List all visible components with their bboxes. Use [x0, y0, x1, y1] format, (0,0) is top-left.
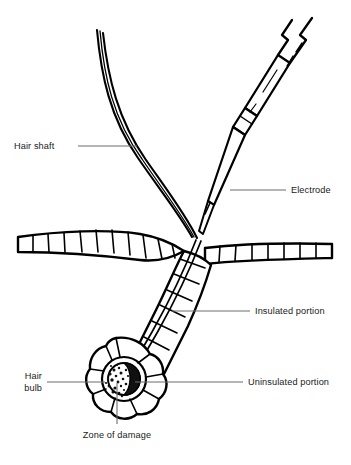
label-uninsulated-portion: Uninsulated portion [248, 377, 329, 387]
label-hair-bulb-line2: bulb [24, 383, 42, 393]
label-hair-bulb-line1: Hair [25, 371, 42, 381]
hair-shaft [97, 30, 197, 238]
electrode-needle [199, 18, 312, 234]
electrolysis-follicle-diagram: Hair shaft Electrode Insulated portion U… [0, 0, 351, 465]
diagram-figure: Hair shaft Electrode Insulated portion U… [0, 0, 351, 465]
label-insulated-portion: Insulated portion [255, 306, 325, 316]
label-electrode: Electrode [291, 185, 331, 195]
label-zone-of-damage: Zone of damage [83, 430, 151, 440]
label-hair-shaft: Hair shaft [14, 141, 55, 151]
epidermis-right [205, 243, 332, 264]
epidermis-left [18, 230, 184, 261]
